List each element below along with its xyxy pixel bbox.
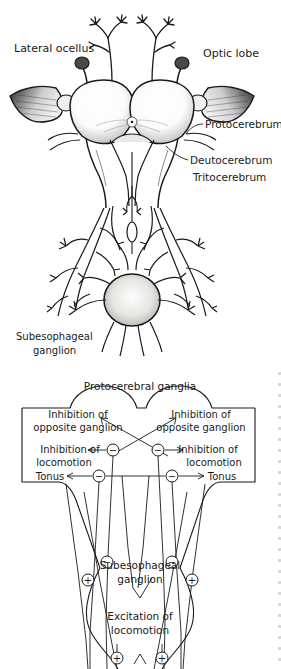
node-plus-outer-right: +	[186, 574, 198, 586]
label-subesophageal-line2: ganglion	[117, 573, 162, 585]
label-excitation-line1: Excitation of	[107, 610, 173, 622]
label-subesophageal-ganglion-line2: ganglion	[33, 345, 76, 356]
node-plus-bottom-left: +	[111, 652, 123, 664]
label-deutocerebrum: Deutocerebrum	[190, 154, 272, 166]
node-plus-outer-left-glyph: +	[84, 575, 92, 586]
insect-brain-anatomical-drawing: Lateral ocellus Optic lobe Protocerebrum…	[0, 0, 281, 372]
tonus-arrows	[67, 473, 204, 479]
label-optic-lobe: Optic lobe	[203, 47, 259, 60]
median-nerve-cord	[123, 152, 141, 254]
label-left-inhibition-locomotion-line2: locomotion	[36, 457, 92, 468]
label-right-tonus: Tonus	[207, 471, 236, 482]
label-protocerebrum: Protocerebrum	[205, 118, 281, 130]
optic-lobe-right	[201, 86, 254, 122]
label-left-tonus: Tonus	[35, 471, 64, 482]
label-left-inhibition-opposite-line1: Inhibition of	[48, 409, 108, 420]
subesophageal-ganglion	[69, 273, 195, 356]
node-plus-bottom-right-glyph: +	[158, 653, 166, 664]
label-right-inhibition-opposite-line2: opposite ganglion	[156, 422, 245, 433]
node-minus-upper-left: −	[107, 444, 119, 456]
node-minus-lower-left-glyph: −	[95, 471, 103, 482]
label-left-inhibition-locomotion-line1: Inhibition of	[40, 444, 100, 455]
label-right-inhibition-locomotion-line1: Inhibition of	[178, 444, 238, 455]
locomotion-control-schematic: −−−−−−++++ Protocerebral ganglia Inhibit…	[0, 372, 281, 669]
page-edge-artifact	[278, 372, 281, 662]
node-minus-upper-right-glyph: −	[154, 445, 162, 456]
label-left-inhibition-opposite-line2: opposite ganglion	[33, 422, 122, 433]
node-minus-upper-left-glyph: −	[109, 445, 117, 456]
label-subesophageal-ganglion-line1: Subesophageal	[16, 331, 93, 342]
schematic-title: Protocerebral ganglia	[84, 380, 196, 392]
node-plus-bottom-left-glyph: +	[113, 653, 121, 664]
label-excitation-line2: locomotion	[111, 624, 169, 636]
node-plus-bottom-right: +	[156, 652, 168, 664]
node-minus-lower-right: −	[166, 470, 178, 482]
node-minus-lower-right-glyph: −	[168, 471, 176, 482]
label-right-inhibition-opposite-line1: Inhibition of	[171, 409, 231, 420]
label-lateral-ocellus: Lateral ocellus	[14, 42, 94, 55]
label-tritocerebrum: Tritocerebrum	[192, 171, 266, 183]
node-minus-lower-left: −	[93, 470, 105, 482]
lateral-ocellus-left	[10, 86, 63, 122]
label-right-inhibition-locomotion-line2: locomotion	[186, 457, 242, 468]
label-subesophageal-line1: Subesophageal	[100, 559, 181, 571]
node-plus-outer-right-glyph: +	[188, 575, 196, 586]
node-plus-outer-left: +	[82, 574, 94, 586]
horizontal-inhibition-arrows	[88, 447, 183, 453]
antennae-group	[89, 15, 175, 82]
node-minus-upper-right: −	[152, 444, 164, 456]
figure-root: Lateral ocellus Optic lobe Protocerebrum…	[0, 0, 281, 669]
